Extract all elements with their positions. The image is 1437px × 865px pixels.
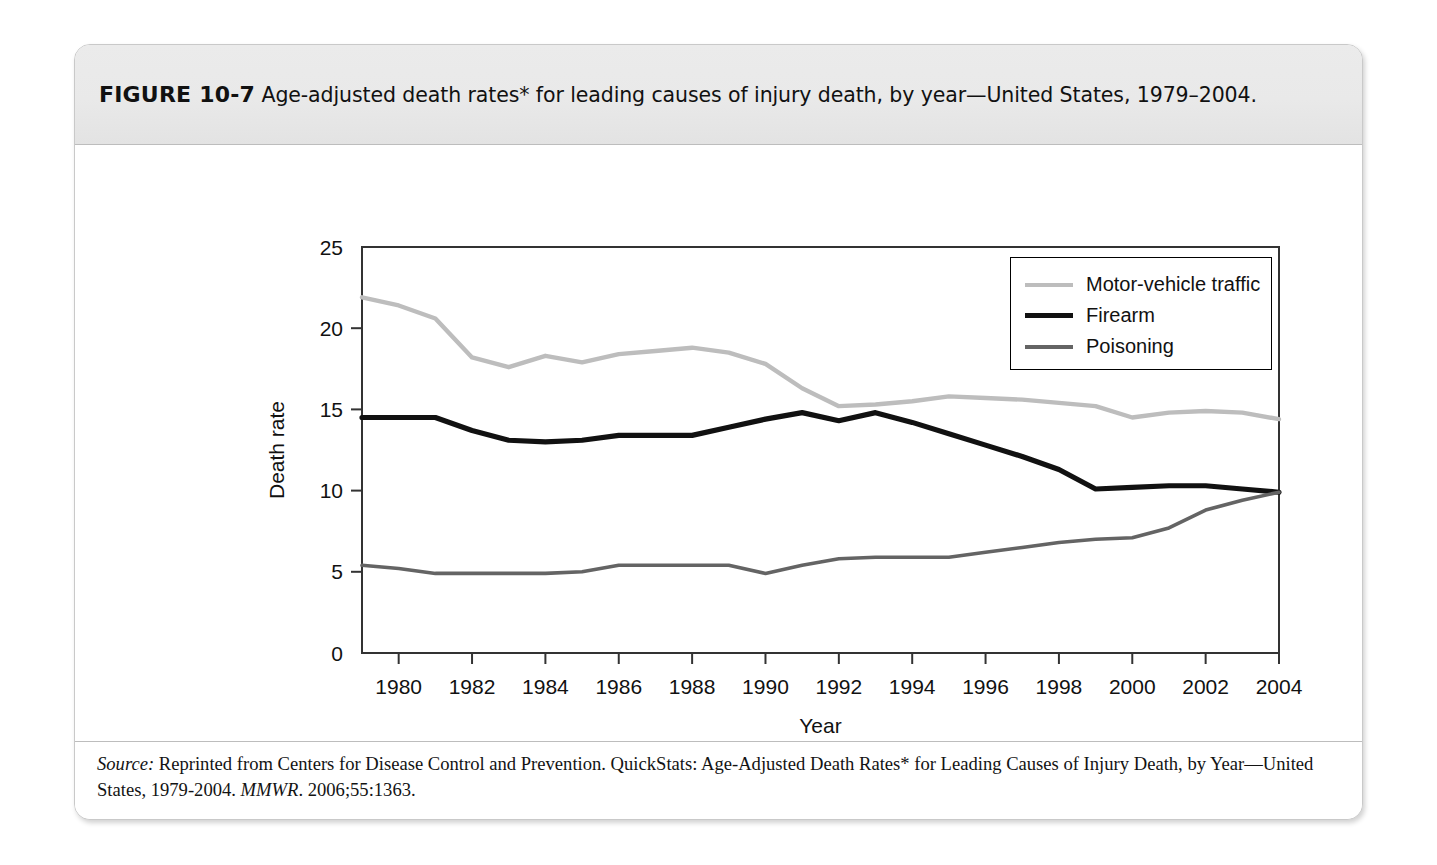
y-axis-tick-label: 5: [331, 560, 343, 583]
legend-label-firearm: Firearm: [1086, 304, 1155, 327]
figure-caption: FIGURE 10-7 Age-adjusted death rates* fo…: [75, 82, 1277, 107]
figure-number: FIGURE 10-7: [99, 82, 255, 107]
y-axis-title: Death rate: [265, 401, 288, 499]
x-axis-tick-label: 1984: [522, 675, 569, 698]
source-journal: MMWR: [241, 779, 299, 800]
x-axis-tick-label: 1994: [889, 675, 936, 698]
line-chart: 0510152025198019821984198619881990199219…: [75, 146, 1363, 746]
y-axis-tick-label: 25: [320, 236, 343, 259]
chart-legend: Motor-vehicle traffic Firearm Poisoning: [1010, 257, 1272, 370]
legend-label-motor-vehicle-traffic: Motor-vehicle traffic: [1086, 273, 1260, 296]
x-axis-tick-label: 1980: [375, 675, 422, 698]
figure-card: FIGURE 10-7 Age-adjusted death rates* fo…: [74, 44, 1363, 820]
legend-swatch-poisoning: [1025, 345, 1073, 349]
y-axis-tick-label: 15: [320, 398, 343, 421]
chart-body: 0510152025198019821984198619881990199219…: [75, 146, 1362, 741]
y-axis-tick-label: 20: [320, 317, 343, 340]
y-axis-tick-label: 10: [320, 479, 343, 502]
x-axis-tick-label: 1996: [962, 675, 1009, 698]
figure-caption-text: Age-adjusted death rates* for leading ca…: [261, 83, 1256, 107]
x-axis-tick-label: 1988: [669, 675, 716, 698]
x-axis-tick-label: 1990: [742, 675, 789, 698]
source-label: Source:: [97, 753, 154, 774]
legend-swatch-motor-vehicle-traffic: [1025, 283, 1073, 287]
x-axis-title: Year: [799, 714, 841, 737]
x-axis-tick-label: 1986: [595, 675, 642, 698]
x-axis-tick-label: 1998: [1036, 675, 1083, 698]
x-axis-tick-label: 1992: [815, 675, 862, 698]
source-body-second: . 2006;55:1363.: [298, 779, 415, 800]
legend-item-motor-vehicle-traffic: Motor-vehicle traffic: [1011, 269, 1271, 300]
y-axis-tick-label: 0: [331, 642, 343, 665]
figure-page: FIGURE 10-7 Age-adjusted death rates* fo…: [0, 0, 1437, 865]
x-axis-tick-label: 1982: [449, 675, 496, 698]
figure-source-band: Source: Reprinted from Centers for Disea…: [75, 741, 1362, 819]
x-axis-tick-label: 2002: [1182, 675, 1229, 698]
legend-swatch-firearm: [1025, 313, 1073, 318]
legend-item-poisoning: Poisoning: [1011, 331, 1271, 362]
figure-source-text: Source: Reprinted from Centers for Disea…: [97, 751, 1336, 804]
legend-label-poisoning: Poisoning: [1086, 335, 1174, 358]
x-axis-tick-label: 2004: [1256, 675, 1303, 698]
figure-header-band: FIGURE 10-7 Age-adjusted death rates* fo…: [75, 45, 1362, 145]
x-axis-tick-label: 2000: [1109, 675, 1156, 698]
legend-item-firearm: Firearm: [1011, 300, 1271, 331]
